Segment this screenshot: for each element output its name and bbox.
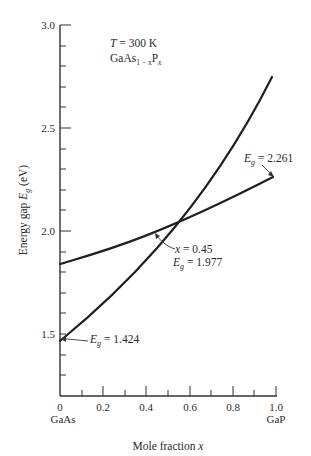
gaas-label: GaAs bbox=[50, 413, 75, 425]
data-curves bbox=[60, 77, 273, 341]
x-tick-label: 1.0 bbox=[269, 401, 283, 413]
x-tick-label: 0.2 bbox=[96, 401, 110, 413]
x-axis-label: Mole fraction x bbox=[133, 440, 205, 452]
gap-label: GaP bbox=[267, 413, 286, 425]
x-tick-labels: 0 0.2 0.4 0.6 0.8 1.0 GaAs GaP bbox=[50, 401, 285, 425]
energy-gap-chart: 3.0 2.5 2.0 1.5 0 0.2 0.4 0.6 0.8 1.0 Ga… bbox=[0, 0, 311, 456]
x-tick-label: 0.8 bbox=[226, 401, 240, 413]
material-label: GaAs1 − xPx bbox=[110, 52, 162, 67]
annotation-eg-2261: Eg = 2.261 bbox=[243, 152, 293, 167]
x-tick-label: 0.6 bbox=[183, 401, 197, 413]
y-tick-label: 3.0 bbox=[41, 19, 55, 31]
y-tick-label: 1.5 bbox=[41, 328, 55, 340]
y-axis-label: Energy gap Eg (eV) bbox=[17, 165, 32, 256]
y-ticks bbox=[60, 25, 71, 375]
temperature-label: T = 300 K bbox=[110, 37, 158, 49]
direct-gap-curve bbox=[60, 77, 272, 341]
annotation-eg-1424: Eg = 1.424 bbox=[89, 333, 139, 348]
annotation-x-045: x = 0.45 bbox=[174, 243, 213, 255]
x-tick-label: 0.4 bbox=[139, 401, 153, 413]
y-tick-label: 2.5 bbox=[41, 122, 55, 134]
x-ticks bbox=[82, 386, 276, 396]
y-tick-labels: 3.0 2.5 2.0 1.5 bbox=[41, 19, 55, 340]
annotation-eg-1977: Eg = 1.977 bbox=[172, 256, 222, 271]
x-tick-label: 0 bbox=[57, 401, 63, 413]
y-tick-label: 2.0 bbox=[41, 225, 55, 237]
indirect-gap-curve bbox=[60, 177, 273, 264]
